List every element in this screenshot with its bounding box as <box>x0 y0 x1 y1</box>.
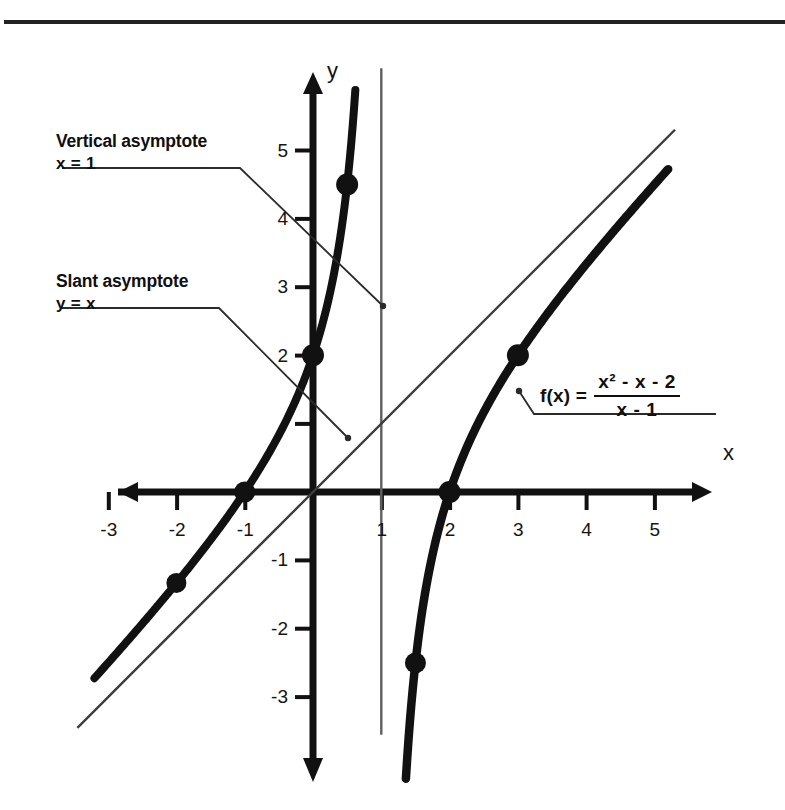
marked-point <box>507 344 529 366</box>
formula-lhs: f(x) = <box>540 385 587 407</box>
x-tick-label: 1 <box>377 519 388 541</box>
leader-endpoint-dot <box>516 388 522 394</box>
annotation-vertical-asymptote-equation: x = 1 <box>56 153 207 175</box>
marked-point <box>336 173 358 195</box>
slant-asymptote-line <box>77 130 675 728</box>
y-axis-top-arrowhead <box>303 72 323 94</box>
y-tick-label: -2 <box>271 618 288 640</box>
y-tick-label: 4 <box>277 208 288 230</box>
x-tick-label: 5 <box>650 519 661 541</box>
y-tick-label: 2 <box>277 345 288 367</box>
annotation-vertical-asymptote: Vertical asymptote x = 1 <box>56 130 207 176</box>
leader-endpoint-dot <box>380 303 386 309</box>
annotation-slant-asymptote: Slant asymptote y = x <box>56 270 188 316</box>
y-axis <box>303 72 323 782</box>
marked-point <box>166 573 186 593</box>
x-axis-left-arrowhead <box>118 482 138 502</box>
marked-point <box>405 652 426 673</box>
y-tick-label: 5 <box>277 140 288 162</box>
x-tick-label: -2 <box>169 519 186 541</box>
x-axis-label: x <box>723 440 734 466</box>
annotation-slant-asymptote-equation: y = x <box>56 293 188 315</box>
x-tick-label: -3 <box>100 519 117 541</box>
function-curve-right-branch <box>406 169 668 779</box>
y-tick-label: 3 <box>277 276 288 298</box>
annotation-slant-asymptote-title: Slant asymptote <box>56 270 188 293</box>
marked-point <box>302 344 324 366</box>
y-axis-label: y <box>327 58 338 84</box>
x-tick-label: 4 <box>581 519 592 541</box>
y-tick-label: -1 <box>271 549 288 571</box>
x-axis-right-arrowhead <box>692 482 712 502</box>
y-tick-label: -3 <box>271 686 288 708</box>
marked-point <box>439 481 461 503</box>
y-axis-bottom-arrowhead <box>303 758 323 782</box>
figure-root: Vertical asymptote x = 1 Slant asymptote… <box>0 0 785 810</box>
formula-denominator: x - 1 <box>613 397 662 421</box>
formula-numerator: x² - x - 2 <box>594 371 680 397</box>
formula-fraction: x² - x - 2 x - 1 <box>594 371 680 421</box>
x-tick-label: 3 <box>513 519 524 541</box>
x-axis <box>118 482 712 502</box>
function-formula: f(x) = x² - x - 2 x - 1 <box>540 371 680 421</box>
x-tick-label: -1 <box>237 519 254 541</box>
leader-endpoint-dot <box>345 435 351 441</box>
marked-point <box>234 482 255 503</box>
x-tick-label: 2 <box>445 519 456 541</box>
annotation-vertical-asymptote-title: Vertical asymptote <box>56 130 207 153</box>
